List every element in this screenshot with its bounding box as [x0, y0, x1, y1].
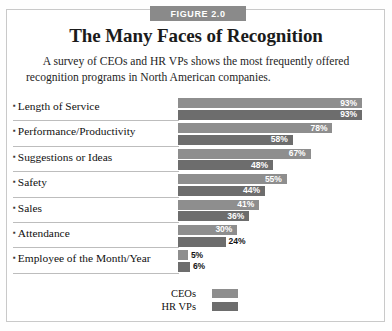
bullet-icon: ▪	[13, 101, 16, 110]
bullet-icon: ▪	[13, 203, 16, 212]
bar-track: 58%	[178, 135, 379, 145]
figure-title: The Many Faces of Recognition	[0, 25, 392, 47]
bar-ceos	[178, 123, 332, 133]
bullet-icon: ▪	[13, 177, 16, 186]
bar-track: 30%	[178, 225, 379, 235]
chart-row-bars: 5%6%	[178, 250, 379, 272]
bullet-icon: ▪	[13, 126, 16, 135]
bar-track: 36%	[178, 211, 379, 221]
subtitle-line-2: recognition programs in North American c…	[24, 70, 368, 86]
chart-row-label-text: Attendance	[18, 227, 70, 239]
bar-track: 48%	[178, 160, 379, 170]
bar-value-label: 78%	[310, 123, 327, 133]
bar-track: 6%	[178, 262, 379, 272]
chart-row: ▪Safety55%44%	[13, 172, 379, 197]
chart-row-label-text: Employee of the Month/Year	[18, 252, 151, 264]
chart-row-label: ▪Employee of the Month/Year	[13, 252, 179, 264]
chart-row-label-text: Suggestions or Ideas	[18, 151, 112, 163]
chart-row: ▪Suggestions or Ideas67%48%	[13, 147, 379, 172]
chart-row-bars: 93%93%	[178, 98, 379, 120]
chart-row-label: ▪Suggestions or Ideas	[13, 151, 179, 163]
bar-value-label: 41%	[237, 199, 254, 209]
bar-value-label: 48%	[251, 160, 268, 170]
chart-row: ▪Sales41%36%	[13, 198, 379, 223]
chart-row-label-text: Length of Service	[18, 100, 100, 112]
bar-hrvps	[178, 110, 362, 120]
bar-value-label: 67%	[289, 148, 306, 158]
bar-ceos	[178, 98, 362, 108]
legend-swatch-hrvps	[212, 302, 238, 311]
bar-track: 24%	[178, 237, 379, 247]
chart-row-label-text: Performance/Productivity	[18, 125, 136, 137]
bar-track: 67%	[178, 149, 379, 159]
bar-value-label: 55%	[265, 174, 282, 184]
bar-track: 93%	[178, 110, 379, 120]
bar-value-label: 93%	[340, 98, 357, 108]
chart-row-bars: 78%58%	[178, 123, 379, 145]
chart-row-bars: 67%48%	[178, 149, 379, 171]
chart-row: ▪Attendance30%24%	[13, 223, 379, 248]
chart-row: ▪Employee of the Month/Year5%6%	[13, 248, 379, 273]
chart-row-label: ▪Length of Service	[13, 100, 179, 112]
chart-row: ▪Performance/Productivity78%58%	[13, 121, 379, 146]
chart-row-bars: 30%24%	[178, 225, 379, 247]
chart-row-bars: 55%44%	[178, 174, 379, 196]
subtitle-line-1: A survey of CEOs and HR VPs shows the mo…	[24, 54, 368, 70]
figure-subtitle: A survey of CEOs and HR VPs shows the mo…	[24, 54, 368, 85]
chart-row-label: ▪Sales	[13, 202, 179, 214]
bar-value-label: 93%	[340, 109, 357, 119]
legend-label-ceos: CEOs	[171, 288, 196, 299]
bullet-icon: ▪	[13, 253, 16, 262]
bar-track: 5%	[178, 250, 379, 260]
bar-chart: ▪Length of Service93%93%▪Performance/Pro…	[13, 96, 379, 276]
bar-track: 93%	[178, 98, 379, 108]
bar-track: 44%	[178, 186, 379, 196]
legend-item-hrvps: HR VPs	[13, 301, 243, 312]
chart-row-label-text: Safety	[18, 176, 47, 188]
bar-track: 41%	[178, 200, 379, 210]
chart-row-label: ▪Attendance	[13, 227, 179, 239]
bar-track: 78%	[178, 123, 379, 133]
bullet-icon: ▪	[13, 228, 16, 237]
chart-row-label-text: Sales	[18, 202, 42, 214]
bar-value-label: 58%	[271, 134, 288, 144]
figure-container: FIGURE 2.0 The Many Faces of Recognition…	[0, 0, 392, 331]
legend-item-ceos: CEOs	[13, 288, 243, 299]
bar-value-label: 36%	[227, 211, 244, 221]
bar-value-label: 5%	[191, 250, 203, 260]
legend-swatch-ceos	[212, 289, 238, 298]
bar-hrvps	[178, 237, 226, 247]
bar-value-label: 44%	[243, 185, 260, 195]
legend-label-hrvps: HR VPs	[161, 301, 196, 312]
bar-value-label: 30%	[215, 224, 232, 234]
bullet-icon: ▪	[13, 152, 16, 161]
chart-legend: CEOs HR VPs	[13, 288, 243, 314]
bar-hrvps	[178, 262, 190, 272]
chart-row-label: ▪Safety	[13, 176, 179, 188]
bar-value-label: 6%	[193, 261, 205, 271]
figure-number-banner: FIGURE 2.0	[150, 6, 246, 21]
bar-ceos	[178, 250, 188, 260]
row-separator	[13, 273, 179, 274]
chart-row-bars: 41%36%	[178, 200, 379, 222]
bar-value-label: 24%	[229, 236, 246, 246]
chart-row-label: ▪Performance/Productivity	[13, 125, 179, 137]
bar-track: 55%	[178, 174, 379, 184]
chart-row: ▪Length of Service93%93%	[13, 96, 379, 121]
